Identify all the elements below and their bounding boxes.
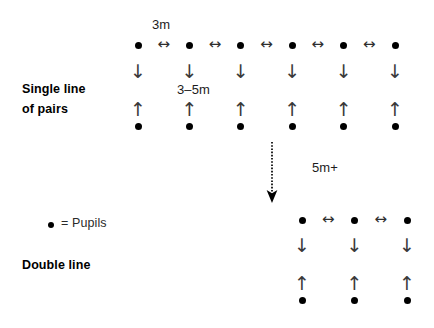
pupil-dot-double-line-bottom-0 [299, 297, 306, 304]
single-line-lr-arrow-1: ↔ [207, 37, 223, 52]
double-line-lr-arrow-0: ↔ [320, 212, 336, 227]
spacing-vertical-label: 3–5m [177, 83, 210, 97]
single-line-lr-arrow-4: ↔ [361, 37, 377, 52]
single-line-lr-arrow-0: ↔ [156, 37, 172, 52]
single-line-label-line1: Single line [22, 82, 86, 96]
pupil-dot-double-line-bottom-2 [404, 297, 411, 304]
pupil-dot-single-line-top-0 [135, 42, 142, 49]
single-line-down-arrow-4: ↓ [336, 62, 352, 81]
pupil-dot-single-line-bottom-5 [392, 123, 399, 130]
single-line-up-arrow-1: ↑ [181, 100, 197, 119]
single-line-down-arrow-2: ↓ [233, 62, 249, 81]
pupil-dot-single-line-bottom-1 [186, 123, 193, 130]
single-line-label-line2: of pairs [22, 102, 68, 116]
single-line-lr-arrow-2: ↔ [259, 37, 275, 52]
spacing-between-groups-label: 5m+ [312, 161, 338, 175]
single-line-down-arrow-3: ↓ [284, 62, 300, 81]
double-line-lr-arrow-1: ↔ [373, 212, 389, 227]
single-line-up-arrow-3: ↑ [284, 100, 300, 119]
double-line-up-arrow-0: ↑ [294, 274, 310, 293]
single-line-down-arrow-5: ↓ [387, 62, 403, 81]
pupil-dot-single-line-top-3 [289, 42, 296, 49]
single-line-lr-arrow-3: ↔ [310, 37, 326, 52]
double-line-label: Double line [22, 258, 90, 272]
pupil-dot-double-line-top-1 [351, 217, 358, 224]
pupil-dot-single-line-bottom-0 [135, 123, 142, 130]
legend-label: = Pupils [61, 216, 107, 230]
diagram-canvas: 3m 3–5m Single line of pairs 5m+ = Pupil… [0, 0, 434, 328]
single-line-down-arrow-1: ↓ [181, 62, 197, 81]
pupil-dot-double-line-top-2 [404, 217, 411, 224]
pupil-dot-single-line-top-1 [186, 42, 193, 49]
double-line-down-arrow-1: ↓ [347, 236, 363, 255]
pupil-dot-double-line-bottom-1 [351, 297, 358, 304]
single-line-up-arrow-4: ↑ [336, 100, 352, 119]
pupil-dot-single-line-top-5 [392, 42, 399, 49]
pupil-dot-single-line-top-4 [340, 42, 347, 49]
single-line-up-arrow-5: ↑ [387, 100, 403, 119]
double-line-down-arrow-2: ↓ [399, 236, 415, 255]
spacing-horizontal-label: 3m [152, 18, 170, 32]
single-line-up-arrow-0: ↑ [130, 100, 146, 119]
pupil-dot-single-line-top-2 [237, 42, 244, 49]
double-line-down-arrow-0: ↓ [294, 236, 310, 255]
legend-pupil-dot-icon [48, 222, 54, 228]
pupil-dot-single-line-bottom-4 [340, 123, 347, 130]
double-line-up-arrow-1: ↑ [347, 274, 363, 293]
pupil-dot-single-line-bottom-3 [289, 123, 296, 130]
pupil-dot-double-line-top-0 [299, 217, 306, 224]
pupil-dot-single-line-bottom-2 [237, 123, 244, 130]
dashed-down-arrow-icon [263, 141, 281, 207]
single-line-down-arrow-0: ↓ [130, 62, 146, 81]
double-line-up-arrow-2: ↑ [399, 274, 415, 293]
single-line-up-arrow-2: ↑ [233, 100, 249, 119]
